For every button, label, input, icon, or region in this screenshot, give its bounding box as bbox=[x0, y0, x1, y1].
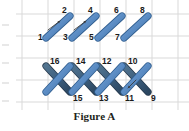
label-10: 10 bbox=[128, 57, 137, 66]
label-8: 8 bbox=[140, 6, 145, 15]
label-6: 6 bbox=[114, 6, 119, 15]
label-9: 9 bbox=[151, 94, 156, 103]
label-13: 13 bbox=[99, 94, 108, 103]
label-7: 7 bbox=[115, 33, 120, 42]
edge-mark-0 bbox=[2, 24, 9, 26]
figure-canvas: 24681357161412101513119 Figure A bbox=[0, 0, 189, 131]
figure-caption: Figure A bbox=[0, 110, 189, 123]
label-15: 15 bbox=[73, 94, 82, 103]
label-2: 2 bbox=[62, 6, 67, 15]
label-11: 11 bbox=[125, 94, 134, 103]
label-1: 1 bbox=[38, 33, 43, 42]
label-14: 14 bbox=[76, 57, 85, 66]
edge-mark-3 bbox=[2, 82, 9, 84]
edge-mark-4 bbox=[2, 100, 9, 102]
edge-mark-1 bbox=[2, 44, 9, 46]
top-stroke-s4 bbox=[124, 16, 148, 38]
bottom-zigzag-strokes bbox=[46, 66, 148, 92]
label-16: 16 bbox=[50, 57, 59, 66]
top-diagonal-strokes bbox=[46, 16, 148, 38]
label-5: 5 bbox=[89, 33, 94, 42]
edge-mark-2 bbox=[2, 62, 9, 64]
label-4: 4 bbox=[88, 6, 93, 15]
label-12: 12 bbox=[102, 57, 111, 66]
label-3: 3 bbox=[63, 33, 68, 42]
